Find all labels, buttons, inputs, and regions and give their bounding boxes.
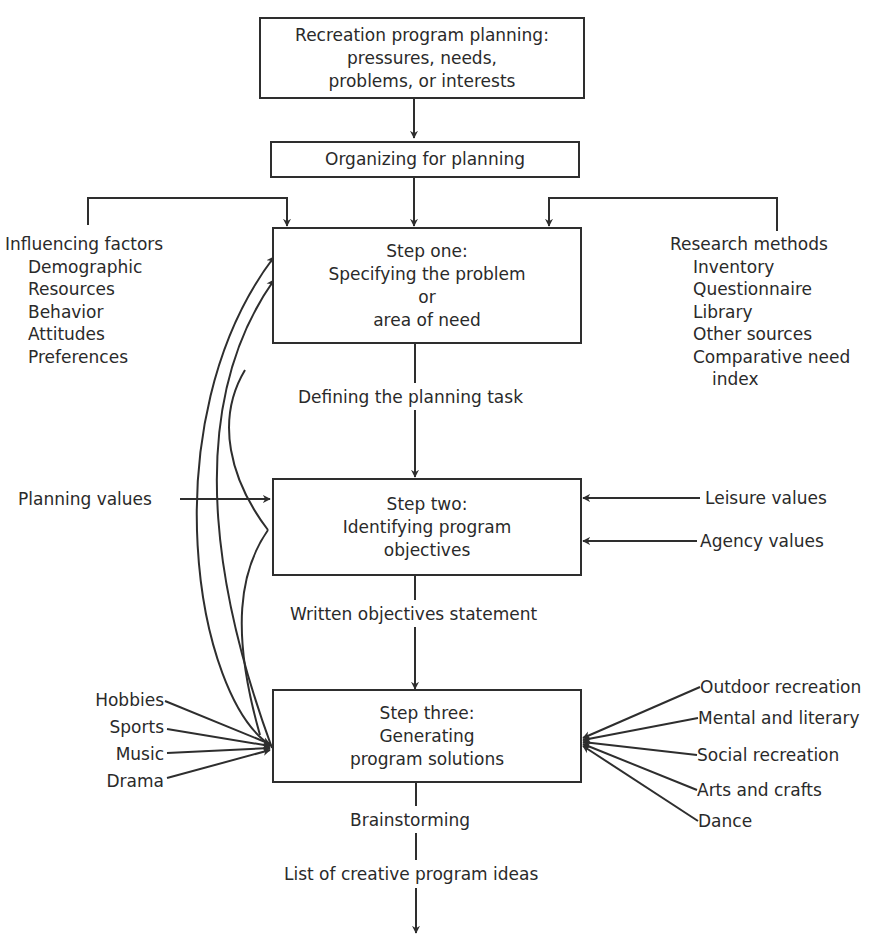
research-methods-title: Research methods — [670, 233, 850, 256]
program-area-social-recreation: Social recreation — [697, 744, 839, 766]
influencing-factors-list: Influencing factors Demographic Resource… — [5, 233, 163, 368]
step-two-line-3: objectives — [384, 539, 471, 562]
program-area-music: Music — [60, 741, 164, 768]
influencing-factor-item: Preferences — [5, 346, 163, 369]
organizing-label: Organizing for planning — [325, 148, 525, 171]
step-three-line-1: Step three: — [380, 702, 475, 725]
step-two-line-1: Step two: — [387, 493, 468, 516]
program-area-mental-literary: Mental and literary — [698, 707, 860, 729]
research-method-item: Comparative need — [670, 346, 850, 369]
program-area-sports: Sports — [60, 714, 164, 741]
step-three-box: Step three: Generating program solutions — [272, 689, 582, 783]
program-area-arts-crafts: Arts and crafts — [697, 779, 822, 801]
organizing-for-planning-box: Organizing for planning — [270, 141, 580, 178]
step-one-line-1: Step one: — [386, 240, 467, 263]
influencing-factor-item: Demographic — [5, 256, 163, 279]
step-two-box: Step two: Identifying program objectives — [272, 478, 582, 576]
left-program-areas: Hobbies Sports Music Drama — [60, 687, 164, 795]
step-three-line-3: program solutions — [350, 748, 504, 771]
research-method-item: Inventory — [670, 256, 850, 279]
planning-values-label: Planning values — [18, 488, 152, 510]
top-box-line-3: problems, or interests — [329, 70, 516, 93]
step-one-box: Step one: Specifying the problem or area… — [272, 227, 582, 344]
influencing-factor-item: Attitudes — [5, 323, 163, 346]
step-three-line-2: Generating — [379, 725, 474, 748]
written-objectives-label: Written objectives statement — [290, 603, 537, 625]
top-box-line-1: Recreation program planning: — [295, 24, 549, 47]
research-method-item: Other sources — [670, 323, 850, 346]
program-area-outdoor-recreation: Outdoor recreation — [700, 676, 861, 698]
influencing-factor-item: Behavior — [5, 301, 163, 324]
creative-ideas-label: List of creative program ideas — [284, 863, 538, 885]
program-area-drama: Drama — [60, 768, 164, 795]
step-two-line-2: Identifying program — [343, 516, 511, 539]
step-one-line-3: or — [418, 286, 435, 309]
research-method-item: Questionnaire — [670, 278, 850, 301]
research-method-item-continuation: index — [670, 368, 850, 391]
agency-values-label: Agency values — [700, 530, 824, 552]
top-box-line-2: pressures, needs, — [347, 47, 497, 70]
step-one-line-2: Specifying the problem — [328, 263, 525, 286]
influencing-factor-item: Resources — [5, 278, 163, 301]
top-box-recreation-program-planning: Recreation program planning: pressures, … — [259, 17, 585, 99]
program-area-hobbies: Hobbies — [60, 687, 164, 714]
leisure-values-label: Leisure values — [705, 487, 827, 509]
research-method-item: Library — [670, 301, 850, 324]
defining-planning-task-label: Defining the planning task — [298, 386, 523, 408]
research-methods-list: Research methods Inventory Questionnaire… — [670, 233, 850, 391]
brainstorming-label: Brainstorming — [350, 809, 470, 831]
influencing-factors-title: Influencing factors — [5, 233, 163, 256]
program-area-dance: Dance — [698, 810, 752, 832]
step-one-line-4: area of need — [373, 309, 481, 332]
